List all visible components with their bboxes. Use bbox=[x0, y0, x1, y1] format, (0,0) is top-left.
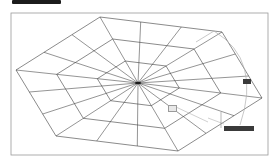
web-spoke bbox=[43, 83, 138, 114]
web-spoke bbox=[97, 83, 138, 141]
web-spoke bbox=[138, 54, 235, 83]
angle-input-tooltip[interactable] bbox=[243, 79, 251, 84]
construction-arc bbox=[196, 31, 247, 125]
spider-web-drawing[interactable] bbox=[0, 0, 276, 162]
center-point-marker bbox=[135, 82, 141, 85]
drawing-viewport[interactable] bbox=[0, 0, 276, 162]
length-label-tooltip bbox=[168, 105, 177, 112]
web-spoke bbox=[138, 83, 178, 151]
web-spoke bbox=[137, 83, 138, 146]
web-spoke bbox=[44, 52, 138, 83]
web-spoke bbox=[138, 22, 141, 83]
web-spoke bbox=[138, 32, 222, 83]
web-spoke bbox=[29, 83, 138, 92]
web-spoke bbox=[16, 70, 138, 83]
web-spoke bbox=[138, 83, 262, 98]
web-spoke bbox=[56, 83, 138, 136]
web-spoke bbox=[138, 76, 249, 83]
web-spoke bbox=[138, 27, 181, 83]
dimension-extension bbox=[208, 118, 224, 124]
web-spoke bbox=[72, 35, 138, 83]
web-spoke bbox=[138, 83, 234, 116]
dynamic-input-field[interactable] bbox=[224, 126, 254, 131]
